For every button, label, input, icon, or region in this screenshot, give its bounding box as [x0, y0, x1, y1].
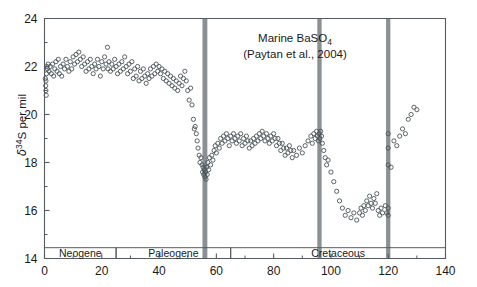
data-point	[70, 67, 74, 71]
data-point	[403, 132, 407, 136]
data-point	[343, 213, 347, 217]
data-point	[123, 55, 127, 59]
data-point	[264, 132, 268, 136]
chart-title-subscript: 4	[327, 37, 332, 47]
data-point	[81, 55, 85, 59]
data-point	[340, 206, 344, 210]
data-point	[195, 139, 199, 143]
data-point	[217, 146, 221, 150]
x-tick-label: 60	[210, 264, 224, 278]
data-point	[415, 108, 419, 112]
data-point	[97, 64, 101, 68]
data-point	[373, 201, 377, 205]
data-point	[158, 72, 162, 76]
data-point	[146, 72, 150, 76]
event-band-0	[202, 19, 207, 259]
x-tick-label: 0	[41, 264, 48, 278]
x-tick-label: 100	[321, 264, 341, 278]
data-point	[300, 151, 304, 155]
data-point	[68, 60, 72, 64]
data-point	[110, 62, 114, 66]
y-axis-label-superscript: 34	[14, 139, 24, 148]
data-point	[130, 60, 134, 64]
data-point	[362, 204, 366, 208]
data-point	[294, 153, 298, 157]
data-point	[363, 208, 367, 212]
y-axis-label-rest: S per mil	[16, 94, 28, 139]
data-point	[188, 86, 192, 90]
period-label-paleogene: Paleogene	[148, 247, 198, 259]
data-point	[128, 69, 132, 73]
figure-container: 141618202224020406080100120140 NeogenePa…	[0, 0, 477, 287]
data-points-group	[43, 45, 419, 222]
data-point	[406, 117, 410, 121]
data-point	[355, 218, 359, 222]
data-point	[64, 57, 68, 61]
data-point	[176, 88, 180, 92]
data-point	[184, 79, 188, 83]
data-point	[61, 62, 65, 66]
data-point	[332, 180, 336, 184]
chart-title-line2: (Paytan et al., 2004)	[243, 48, 347, 60]
data-point	[379, 206, 383, 210]
data-point	[260, 129, 264, 133]
data-point	[113, 57, 117, 61]
data-point	[292, 148, 296, 152]
data-point	[231, 132, 235, 136]
x-tick-label: 120	[378, 264, 398, 278]
x-tick-label: 40	[152, 264, 166, 278]
data-point	[77, 50, 81, 54]
y-tick-label: 24	[24, 12, 38, 26]
data-point	[337, 199, 341, 203]
data-point	[287, 144, 291, 148]
data-point	[360, 213, 364, 217]
data-point	[290, 156, 294, 160]
data-point	[329, 170, 333, 174]
data-point	[100, 60, 104, 64]
x-tick-label: 20	[95, 264, 109, 278]
data-point	[349, 216, 353, 220]
data-point	[93, 62, 97, 66]
data-point	[180, 84, 184, 88]
chart-title: Marine BaSO4 (Paytan et al., 2004)	[215, 31, 375, 62]
data-point	[120, 60, 124, 64]
data-point	[380, 211, 384, 215]
period-labels-group: NeogenePaleogeneCretaceous	[59, 247, 365, 259]
data-point	[65, 64, 69, 68]
data-point	[209, 163, 213, 167]
data-point	[237, 139, 241, 143]
data-point	[105, 45, 109, 49]
data-point	[244, 134, 248, 138]
data-point	[91, 72, 95, 76]
data-point	[190, 103, 194, 107]
data-point	[306, 139, 310, 143]
data-point	[103, 55, 107, 59]
data-point	[372, 196, 376, 200]
period-label-neogene: Neogene	[59, 247, 102, 259]
data-point	[392, 139, 396, 143]
data-point	[216, 141, 220, 145]
delta-symbol: δ	[15, 149, 29, 156]
data-point	[101, 67, 105, 71]
data-point	[375, 192, 379, 196]
data-point	[395, 144, 399, 148]
data-point	[187, 98, 191, 102]
data-point	[280, 141, 284, 145]
x-tick-label: 80	[267, 264, 281, 278]
data-point	[369, 201, 373, 205]
event-band-2	[386, 19, 390, 259]
data-point	[239, 132, 243, 136]
data-point	[144, 81, 148, 85]
x-tick-label: 140	[435, 264, 455, 278]
data-point	[196, 146, 200, 150]
y-axis-label: δ34S per mil	[15, 65, 29, 185]
data-point	[400, 127, 404, 131]
data-point	[95, 57, 99, 61]
data-point	[297, 146, 301, 150]
data-point	[224, 132, 228, 136]
data-point	[409, 112, 413, 116]
data-point	[134, 74, 138, 78]
data-point	[398, 134, 402, 138]
data-point	[141, 67, 145, 71]
data-point	[58, 64, 62, 68]
